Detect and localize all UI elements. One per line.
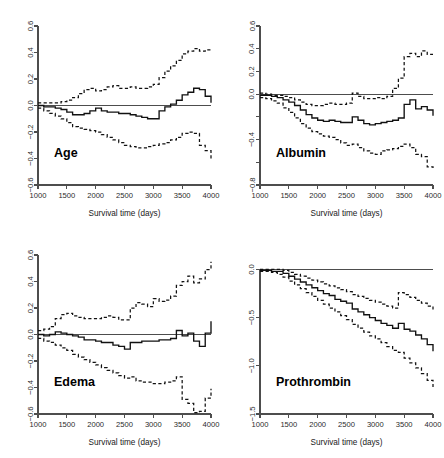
panel-edema: −0.6−0.4−0.20.00.20.40.61000150020002500… (0, 229, 222, 458)
panel-albumin-y-tick-label: 0.6 (248, 21, 257, 32)
panel-age-x-axis-title: Survival time (days) (89, 209, 161, 218)
panel-albumin-plot: −0.8−0.40.00.20.40.610001500200025003000… (222, 0, 444, 229)
panel-age-x-tick-label: 2000 (87, 191, 104, 200)
panel-edema-y-tick-label: 0.4 (26, 276, 35, 287)
panel-prothrombin-x-tick-label: 1500 (280, 420, 297, 429)
panel-edema-title: Edema (54, 375, 96, 389)
panel-age-plot: −0.6−0.4−0.20.00.20.40.61000150020002500… (0, 0, 222, 229)
panel-edema-y-tick-label: 0.2 (26, 303, 35, 314)
panel-albumin-title: Albumin (276, 146, 326, 160)
panel-prothrombin-x-tick-label: 2000 (309, 420, 326, 429)
panel-prothrombin-estimate-line (260, 270, 433, 351)
panel-prothrombin-plot: −1.5−1.0−0.50.01000150020002500300035004… (222, 229, 444, 458)
panel-edema-y-tick-label: −0.2 (26, 354, 35, 369)
panel-prothrombin-y-tick-label: −0.5 (248, 310, 257, 325)
panel-prothrombin-y-tick-label: 0.0 (248, 264, 257, 275)
panel-albumin-upper-ci-line (260, 51, 433, 106)
panel-albumin: −0.8−0.40.00.20.40.610001500200025003000… (222, 0, 444, 229)
panel-prothrombin-x-tick-label: 1000 (252, 420, 269, 429)
panel-edema-x-axis-title: Survival time (days) (89, 438, 161, 447)
panel-albumin-x-tick-label: 2000 (309, 191, 326, 200)
panel-prothrombin-x-tick-label: 4000 (425, 420, 442, 429)
panel-edema-x-tick-label: 2500 (116, 420, 133, 429)
panel-edema-y-tick-label: −0.4 (26, 380, 35, 395)
panel-age-x-tick-label: 1500 (58, 191, 75, 200)
panel-age-x-tick-label: 1000 (30, 191, 47, 200)
panel-age-y-tick-label: 0.6 (26, 21, 35, 32)
panel-edema-x-tick-label: 4000 (203, 420, 220, 429)
panel-edema-estimate-line (38, 321, 211, 349)
panel-albumin-x-axis-title: Survival time (days) (311, 209, 383, 218)
panel-albumin-x-tick-label: 3500 (396, 191, 413, 200)
panel-age-x-tick-label: 3500 (174, 191, 191, 200)
panel-albumin-x-tick-label: 1500 (280, 191, 297, 200)
panel-edema-plot: −0.6−0.4−0.20.00.20.40.61000150020002500… (0, 229, 222, 458)
panel-albumin-y-tick-label: 0.2 (248, 66, 257, 77)
panel-edema-x-tick-label: 3500 (174, 420, 191, 429)
panel-age-estimate-line (38, 88, 211, 118)
panel-prothrombin-x-tick-label: 2500 (338, 420, 355, 429)
panel-prothrombin: −1.5−1.0−0.50.01000150020002500300035004… (222, 229, 444, 458)
panel-age-y-tick-label: 0.2 (26, 74, 35, 85)
panel-age-y-tick-label: 0.0 (26, 100, 35, 111)
panel-albumin-y-tick-label: 0.0 (248, 89, 257, 100)
panel-prothrombin-x-tick-label: 3000 (367, 420, 384, 429)
panel-edema-y-tick-label: 0.6 (26, 250, 35, 261)
panel-albumin-x-tick-label: 3000 (367, 191, 384, 200)
panel-age-y-tick-label: −0.2 (26, 125, 35, 140)
panel-prothrombin-x-tick-label: 3500 (396, 420, 413, 429)
panel-edema-x-tick-label: 1500 (58, 420, 75, 429)
panel-age-y-tick-label: −0.4 (26, 151, 35, 166)
panel-age-title: Age (54, 146, 78, 160)
panel-prothrombin-title: Prothrombin (276, 375, 351, 389)
panel-prothrombin-y-tick-label: −1.0 (248, 358, 257, 373)
panel-albumin-x-tick-label: 2500 (338, 191, 355, 200)
panel-albumin-x-tick-label: 4000 (425, 191, 442, 200)
figure-panel-grid: −0.6−0.4−0.20.00.20.40.61000150020002500… (0, 0, 444, 458)
panel-age: −0.6−0.4−0.20.00.20.40.61000150020002500… (0, 0, 222, 229)
panel-edema-y-tick-label: 0.0 (26, 329, 35, 340)
panel-albumin-x-tick-label: 1000 (252, 191, 269, 200)
panel-albumin-y-tick-label: −0.4 (248, 132, 257, 147)
panel-edema-x-tick-label: 3000 (145, 420, 162, 429)
panel-edema-upper-ci-line (38, 262, 211, 331)
panel-edema-x-tick-label: 1000 (30, 420, 47, 429)
panel-albumin-y-tick-label: 0.4 (248, 43, 257, 54)
panel-age-x-tick-label: 4000 (203, 191, 220, 200)
panel-age-x-tick-label: 3000 (145, 191, 162, 200)
panel-prothrombin-x-axis-title: Survival time (days) (311, 438, 383, 447)
panel-edema-x-tick-label: 2000 (87, 420, 104, 429)
panel-prothrombin-upper-ci-line (260, 269, 433, 310)
panel-albumin-estimate-line (260, 95, 433, 125)
panel-age-y-tick-label: 0.4 (26, 47, 35, 58)
panel-age-x-tick-label: 2500 (116, 191, 133, 200)
